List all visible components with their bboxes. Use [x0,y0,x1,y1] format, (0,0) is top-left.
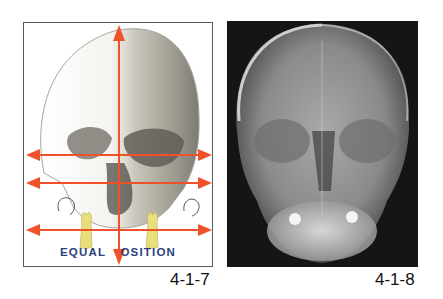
banner-text-left: EQUAL [60,246,110,258]
banner-text-right: OSITION [120,246,176,258]
skull-drawing-icon [24,23,213,267]
skull-xray-figure [227,21,418,267]
figure-caption-4-1-8: 4-1-8 [375,270,415,290]
equal-position-banner: EQUAL OSITION [24,246,212,258]
xray-image-icon [227,21,418,267]
figure-caption-4-1-7: 4-1-7 [170,270,210,290]
skull-illustration-figure: EQUAL OSITION [23,22,213,267]
